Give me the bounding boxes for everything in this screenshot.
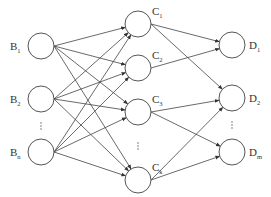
ellipsis-dot-input-2 — [40, 128, 41, 129]
nodes-group — [28, 11, 245, 193]
edge-B2-C2 — [54, 73, 126, 99]
node-Bn — [28, 139, 54, 165]
label-B1: B1 — [10, 40, 21, 54]
node-C2 — [125, 55, 151, 81]
network-diagram: B1B2BnC1C2C3CkD1D2Dm — [0, 0, 271, 197]
ellipsis-dot-output-2 — [231, 127, 232, 128]
node-C3 — [125, 99, 151, 125]
edge-B1-C1 — [54, 27, 125, 46]
edge-Bn-Ck — [54, 152, 126, 176]
label-C2: C2 — [152, 49, 163, 63]
label-D1: D1 — [249, 39, 260, 53]
edge-B2-C3 — [54, 99, 125, 110]
edge-Bn-C2 — [54, 77, 129, 152]
ellipsis-dot-output-1 — [231, 124, 232, 125]
node-D1 — [219, 32, 245, 58]
edge-B1-C2 — [54, 46, 125, 65]
node-Ck — [125, 167, 151, 193]
ellipsis-dot-hidden-0 — [137, 142, 138, 143]
edge-C3-Dm — [151, 112, 220, 146]
node-D2 — [219, 85, 245, 111]
node-B1 — [28, 33, 54, 59]
ellipsis-dot-hidden-1 — [137, 145, 138, 146]
ellipsis-dot-input-0 — [40, 122, 41, 123]
network-diagram-canvas: B1B2BnC1C2C3CkD1D2Dm — [0, 0, 271, 197]
label-Bn: Bn — [10, 146, 21, 160]
ellipsis-dot-input-1 — [40, 125, 41, 126]
label-Dm: Dm — [249, 146, 262, 160]
label-Ck: Ck — [152, 161, 163, 175]
edge-Bn-C1 — [54, 35, 131, 152]
label-C3: C3 — [152, 93, 163, 107]
label-C1: C1 — [152, 5, 163, 19]
node-B2 — [28, 86, 54, 112]
label-B2: B2 — [10, 93, 21, 107]
node-Dm — [219, 139, 245, 165]
node-C1 — [125, 11, 151, 37]
ellipsis-dot-output-0 — [231, 121, 232, 122]
ellipsis-dot-hidden-2 — [137, 148, 138, 149]
label-D2: D2 — [249, 92, 260, 106]
